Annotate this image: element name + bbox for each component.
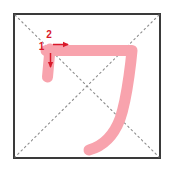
- stroke-order-diagram: 1 2: [0, 0, 174, 169]
- stroke-number-label-1: 1: [39, 41, 45, 52]
- diagram-canvas: 1 2: [0, 0, 174, 169]
- stroke-number-label-2: 2: [46, 29, 52, 40]
